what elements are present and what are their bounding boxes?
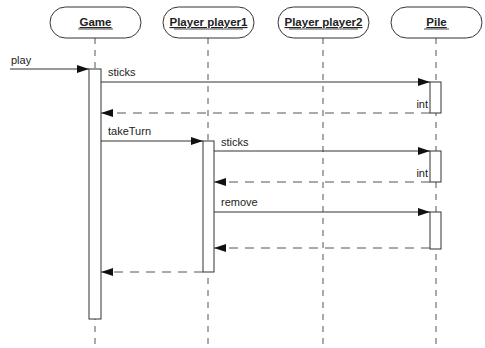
return-int-1-label: int	[416, 98, 428, 110]
participant-game[interactable]: Game	[50, 7, 141, 38]
message-remove-label: remove	[221, 196, 258, 208]
message-sticks-2-label: sticks	[221, 136, 249, 148]
message-remove: remove	[214, 196, 430, 212]
activation-pile-1	[430, 82, 441, 113]
participant-game-label: Game	[80, 16, 112, 28]
return-int-1: int	[101, 98, 430, 113]
message-sticks-1-label: sticks	[108, 66, 136, 78]
activation-pile-2	[430, 151, 441, 182]
sequence-diagram: Game Player player1 Player player2 Pile …	[0, 0, 485, 348]
participant-player1[interactable]: Player player1	[163, 7, 254, 38]
message-sticks-2: sticks	[214, 136, 430, 151]
participant-player2-label: Player player2	[284, 16, 362, 28]
return-int-2-label: int	[416, 167, 428, 179]
message-taketurn-label: takeTurn	[108, 125, 151, 137]
activation-game	[89, 69, 101, 319]
message-play-label: play	[11, 54, 32, 66]
participant-pile-label: Pile	[426, 16, 446, 28]
participant-player1-label: Player player1	[169, 16, 248, 28]
participant-pile[interactable]: Pile	[391, 7, 482, 38]
return-int-2: int	[214, 167, 430, 182]
activation-player1	[203, 141, 214, 272]
message-play: play	[10, 54, 89, 69]
activation-pile-3	[430, 212, 441, 249]
message-taketurn: takeTurn	[101, 125, 203, 141]
participant-player2[interactable]: Player player2	[278, 7, 369, 38]
message-sticks-1: sticks	[101, 66, 430, 82]
